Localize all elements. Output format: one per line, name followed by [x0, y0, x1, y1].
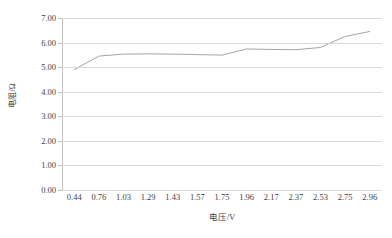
x-axis-tick-labels: 0.440.761.031.291.431.571.751.962.172.37…	[62, 192, 382, 208]
gridline	[62, 43, 382, 44]
y-axis-tick: 6.00	[41, 38, 56, 47]
y-axis-tick: 2.00	[41, 137, 56, 146]
x-axis-tick: 1.96	[239, 192, 254, 202]
x-axis-title: 电压/V	[62, 210, 382, 222]
y-axis-tick: 0.00	[41, 186, 56, 195]
x-axis-tick: 1.03	[116, 192, 131, 202]
y-tick-mark	[58, 92, 62, 93]
x-axis-tick: 1.29	[141, 192, 156, 202]
gridline	[62, 116, 382, 117]
x-axis-tick: 1.75	[215, 192, 230, 202]
x-axis-tick: 1.43	[165, 192, 180, 202]
x-axis-tick: 0.44	[67, 192, 82, 202]
y-tick-mark	[58, 43, 62, 44]
x-axis-tick: 2.96	[362, 192, 377, 202]
y-tick-mark	[58, 190, 62, 191]
x-axis-tick: 1.57	[190, 192, 205, 202]
x-axis-tick: 2.53	[313, 192, 328, 202]
y-axis-tick: 5.00	[41, 63, 56, 72]
gridline	[62, 190, 382, 191]
x-axis-tick: 2.17	[264, 192, 279, 202]
series-polyline	[74, 32, 369, 70]
y-tick-mark	[58, 116, 62, 117]
y-axis-tick-labels: 0.001.002.003.004.005.006.007.00	[18, 0, 60, 238]
y-axis-tick: 7.00	[41, 14, 56, 23]
y-tick-mark	[58, 18, 62, 19]
y-tick-mark	[58, 165, 62, 166]
gridline	[62, 165, 382, 166]
y-axis-tick: 1.00	[41, 161, 56, 170]
plot-area	[62, 18, 382, 190]
x-axis-tick: 2.75	[338, 192, 353, 202]
chart-container: 电阻/Ω 0.001.002.003.004.005.006.007.00 0.…	[0, 0, 392, 238]
gridline	[62, 141, 382, 142]
y-tick-mark	[58, 141, 62, 142]
x-axis-tick: 2.37	[288, 192, 303, 202]
gridline	[62, 18, 382, 19]
y-tick-mark	[58, 67, 62, 68]
data-series-line	[62, 18, 382, 190]
x-axis-tick: 0.76	[91, 192, 106, 202]
gridline	[62, 67, 382, 68]
y-axis-tick: 4.00	[41, 87, 56, 96]
y-axis-tick: 3.00	[41, 112, 56, 121]
y-axis-title-label: 电阻/Ω	[6, 83, 17, 107]
gridline	[62, 92, 382, 93]
